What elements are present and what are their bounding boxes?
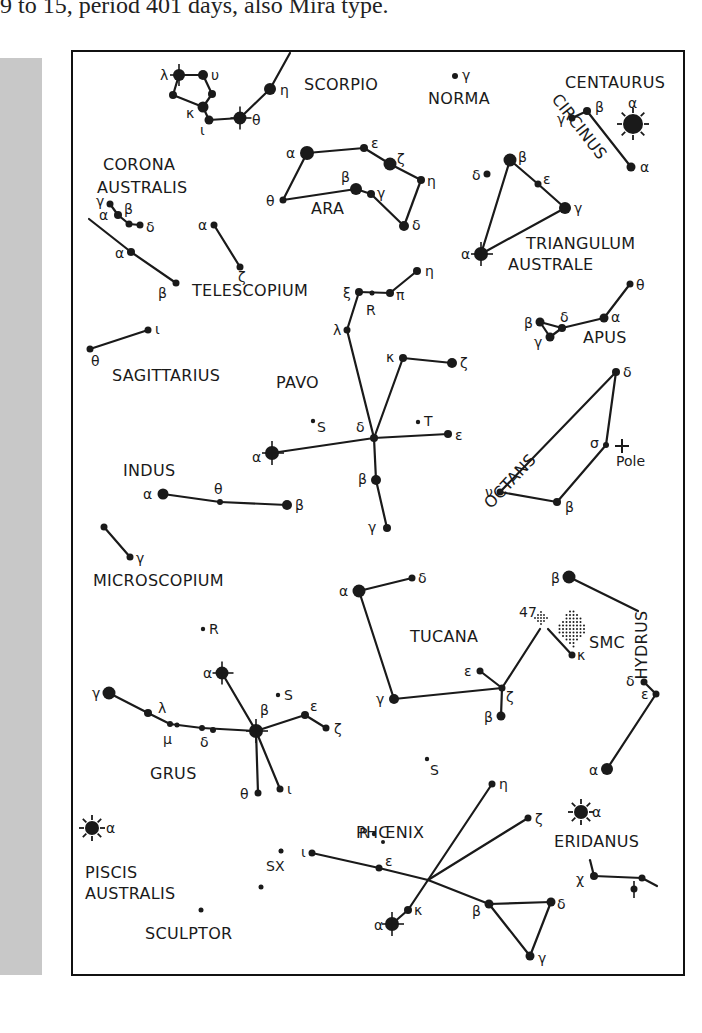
greek-letter-label: δ (560, 309, 569, 325)
star-dot-icon (127, 554, 134, 561)
constellation-line (131, 252, 176, 283)
star: γ (367, 185, 385, 201)
variable-star-dot-icon (201, 627, 205, 631)
star: α (374, 912, 404, 936)
constellation-line (90, 330, 148, 349)
star: ζ (323, 721, 342, 737)
star-dot-icon (404, 906, 412, 914)
first-magnitude-ray-icon (587, 818, 591, 822)
star: ξ (343, 285, 363, 301)
constellation-name: PHŒNIX (356, 823, 424, 842)
star: γ (452, 67, 470, 83)
greek-letter-label: ι (155, 321, 160, 337)
star-dot-icon (600, 314, 609, 323)
star-dot-icon (444, 430, 452, 438)
nebula-dot-icon (566, 639, 568, 641)
nebula-dot-icon (576, 621, 578, 623)
star: β (282, 497, 304, 513)
first-magnitude-ray-icon (587, 803, 591, 807)
nebula-dot-icon (559, 628, 561, 630)
star: α (99, 207, 122, 223)
nebula-dot-icon (566, 628, 568, 630)
first-magnitude-ray-icon (572, 818, 576, 822)
cluster-dot-icon (540, 611, 542, 613)
star-dot-icon (323, 725, 330, 732)
star-dot-icon (255, 790, 262, 797)
greek-letter-label: α (115, 245, 124, 261)
star (631, 881, 638, 898)
greek-letter-label: κ (414, 902, 422, 918)
star (199, 908, 204, 913)
cluster-dot-icon (543, 620, 545, 622)
star-dot-icon (590, 872, 598, 880)
constellation-name: GRUS (150, 764, 197, 783)
star: θ (87, 346, 100, 370)
nebula-dot-icon (573, 614, 575, 616)
star-dot-icon (350, 183, 362, 195)
star: η (264, 82, 289, 98)
star (169, 91, 177, 99)
star: ζ (384, 151, 405, 171)
nebula-dot-icon (562, 625, 564, 627)
star: λ (144, 700, 166, 717)
star: ε (376, 853, 393, 872)
constellation-name: TRIANGULUM (525, 234, 635, 253)
nebula-dot-icon (569, 628, 571, 630)
star-dot-icon (399, 354, 407, 362)
constellation-line (530, 902, 551, 956)
greek-letter-label: δ (472, 167, 481, 183)
star-dot-icon (301, 711, 309, 719)
star: β (583, 99, 604, 115)
constellation-name: SAGITTARIUS (112, 366, 220, 385)
variable-star-label: T (423, 413, 433, 429)
constellation-line (502, 629, 540, 688)
greek-letter-label: α (339, 583, 348, 599)
variable-star-label: S (430, 762, 439, 778)
star: β (246, 702, 269, 743)
star: ε (444, 427, 463, 443)
nebula-dot-icon (583, 632, 585, 634)
star: γ (127, 550, 145, 566)
variable-star-dot-icon (425, 757, 429, 761)
greek-letter-label: β (484, 709, 493, 725)
constellation-line (163, 494, 220, 502)
star: α (617, 95, 649, 140)
greek-letter-label: γ (368, 519, 376, 535)
star-dot-icon (497, 712, 506, 721)
constellation-line (104, 527, 130, 557)
nebula-dot-icon (569, 625, 571, 627)
constellation-line (606, 372, 616, 445)
constellation-line (312, 853, 379, 868)
star: π (386, 287, 405, 303)
star-dot-icon (101, 524, 108, 531)
first-magnitude-ray-icon (641, 132, 645, 136)
star-dot-icon (563, 571, 576, 584)
constellation-line (480, 671, 502, 688)
nebula-dot-icon (580, 635, 582, 637)
nebula-dot-icon (583, 625, 585, 627)
star (639, 875, 646, 882)
variable-star: S (311, 419, 326, 435)
star-dot-icon (627, 163, 636, 172)
star (210, 727, 216, 733)
greek-letter-label: δ (418, 570, 427, 586)
constellation-name: PAVO (276, 373, 319, 392)
nebula-dot-icon (573, 621, 575, 623)
nebula-dot-icon (580, 628, 582, 630)
star-dot-icon (198, 70, 208, 80)
constellation-line (272, 438, 374, 453)
variable-star-dot-icon (276, 693, 280, 697)
star: ε (535, 171, 551, 188)
cluster-dot-icon (546, 617, 548, 619)
nebula-dot-icon (580, 621, 582, 623)
greek-letter-label: α (99, 207, 108, 223)
constellation-line (607, 694, 656, 769)
greek-letter-label: ζ (334, 721, 342, 737)
star-dot-icon (217, 499, 223, 505)
constellation-name: CORONA (103, 155, 175, 174)
constellation-line (359, 578, 412, 591)
greek-letter-label: β (358, 471, 367, 487)
nebula-dot-icon (573, 632, 575, 634)
greek-letter-label: β (472, 903, 481, 919)
star-dot-icon (525, 815, 532, 822)
